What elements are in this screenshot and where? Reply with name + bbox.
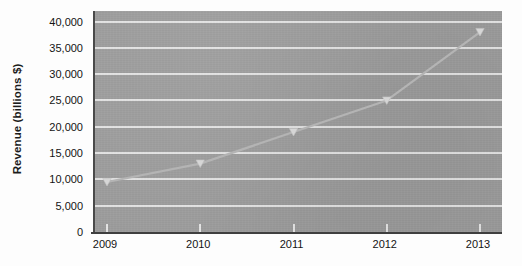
y-axis-tick-label: 15,000 [49, 147, 83, 159]
x-axis-tick-label: 2009 [93, 238, 117, 250]
revenue-line-chart: Revenue (billions $) 05,00010,00015,0002… [0, 0, 522, 266]
y-axis-title: Revenue (billions $) [0, 0, 34, 238]
y-axis-tick-labels: 05,00010,00015,00020,00025,00030,00035,0… [34, 11, 88, 232]
y-axis-tick-label: 20,000 [49, 121, 83, 133]
data-series-layer [95, 11, 502, 232]
x-axis-tick-label: 2010 [186, 238, 210, 250]
series-line [107, 32, 480, 182]
x-axis-line [91, 232, 502, 234]
x-axis-tick-label: 2012 [373, 238, 397, 250]
y-axis-tick-label: 25,000 [49, 94, 83, 106]
y-axis-tick-label: 5,000 [55, 200, 83, 212]
x-axis-tick-label: 2011 [280, 238, 304, 250]
y-axis-tick-label: 10,000 [49, 173, 83, 185]
plot-area [93, 11, 502, 232]
y-axis-tick-label: 0 [77, 226, 83, 238]
x-axis-tick-label: 2013 [466, 238, 490, 250]
y-axis-tick-label: 30,000 [49, 68, 83, 80]
x-axis-tick-labels: 20092010201120122013 [93, 236, 500, 260]
y-axis-tick-label: 35,000 [49, 42, 83, 54]
y-axis-tick-label: 40,000 [49, 16, 83, 28]
y-axis-title-label: Revenue (billions $) [11, 64, 23, 175]
